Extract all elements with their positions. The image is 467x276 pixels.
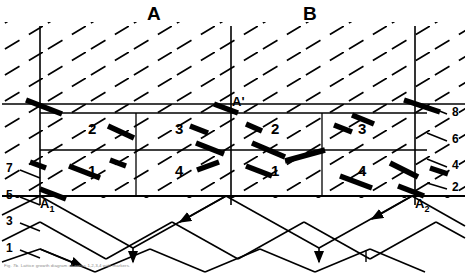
vertex-A2-base: A: [415, 196, 424, 211]
left-tick-7: 7: [6, 162, 13, 174]
cell-label-a-bottom-1: 1: [88, 163, 96, 178]
lower-chevron-lattice: [2, 196, 465, 272]
vertex-label-A-prime: A': [232, 95, 244, 108]
region-label-B: B: [303, 4, 317, 23]
cell-label-b-top-3: 3: [358, 121, 366, 136]
figure-caption: Fig. 7b. Lattice growth diagram of zones…: [4, 263, 304, 268]
cell-label-b-top-2: 2: [271, 121, 279, 136]
cell-label-a-bottom-4: 4: [175, 163, 183, 178]
right-tick-4: 4: [452, 159, 459, 171]
region-label-A: A: [147, 4, 161, 23]
left-tick-3: 3: [6, 215, 13, 227]
cell-label-a-top-2: 2: [88, 121, 96, 136]
right-tick-8: 8: [452, 106, 459, 118]
right-tick-6: 6: [452, 133, 459, 145]
vertex-A1-base: A: [40, 196, 49, 211]
vertex-label-A1: A1: [40, 197, 54, 214]
vertex-label-A2: A2: [415, 197, 429, 214]
cell-label-a-top-3: 3: [175, 121, 183, 136]
vertex-A1-sub: 1: [49, 204, 54, 214]
lattice-growth-figure: A B 2 3 1 4 2 3 1 4 7 5 3 1 8 6 4 2 A1 A…: [0, 0, 467, 276]
cell-label-b-bottom-1: 1: [271, 163, 279, 178]
left-tick-5: 5: [6, 189, 13, 201]
diagram-canvas: [0, 0, 467, 276]
right-tick-2: 2: [452, 181, 459, 193]
left-tick-1: 1: [6, 242, 13, 254]
cell-label-b-bottom-4: 4: [358, 163, 366, 178]
vertex-A2-sub: 2: [424, 204, 429, 214]
